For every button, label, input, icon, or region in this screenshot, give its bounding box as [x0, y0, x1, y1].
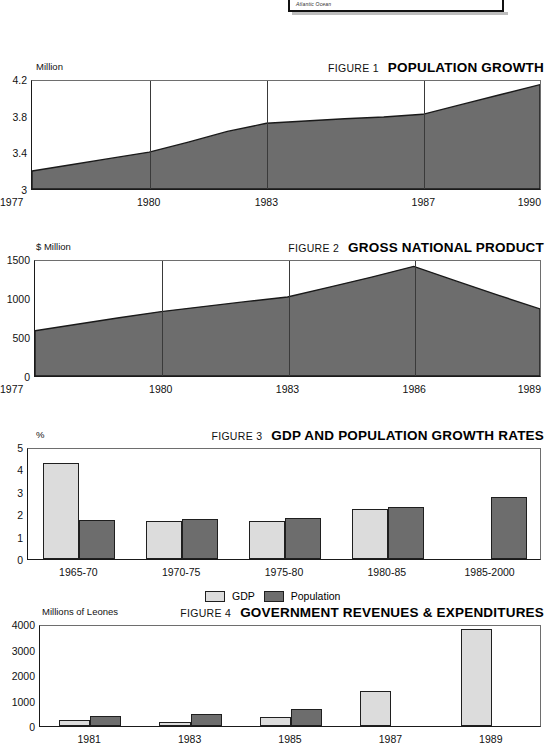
figure-4-number: FIGURE 4: [180, 607, 231, 619]
x-axis-category-label: 1981: [78, 733, 101, 745]
figure-2-gross-national-product: $ Million FIGURE 2 GROSS NATIONAL PRODUC…: [0, 240, 560, 395]
figure-2-plot: [34, 260, 541, 377]
x-axis-category-label: 1983: [178, 733, 201, 745]
figure-1-y-axis: 33.43.84.2: [0, 80, 31, 190]
figure-4-header: Millions of Leones FIGURE 4 GOVERNMENT R…: [0, 605, 560, 621]
bar-population-1970-75: [182, 519, 218, 559]
figure-1-title: POPULATION GROWTH: [388, 60, 544, 75]
x-axis-category-label: 1987: [379, 733, 402, 745]
figure-3-plot: [27, 448, 541, 560]
plot-divider-line: [415, 261, 416, 376]
x-axis-tick-label: 1983: [276, 383, 299, 395]
figure-1-plot-area: 33.43.84.2 19771980198319871990: [0, 80, 560, 208]
bar-revenues-1989: [461, 629, 492, 726]
x-axis-category-label: 1980-85: [368, 566, 407, 578]
figure-1-population-growth: Million FIGURE 1 POPULATION GROWTH 33.43…: [0, 60, 560, 208]
figure-4-plot: [39, 625, 541, 727]
bar-revenues-1983: [159, 722, 190, 726]
y-axis-tick-label: 1000: [12, 696, 35, 708]
map-inset-shadow: [292, 12, 508, 15]
bar-gdp-1980-85: [352, 509, 388, 559]
figure-2-unit-label: $ Million: [36, 241, 71, 252]
y-axis-tick-label: 1000: [7, 293, 30, 305]
legend-label: Population: [291, 590, 341, 602]
x-axis-tick-label: 1990: [518, 196, 541, 208]
bar-population-1975-80: [285, 518, 321, 559]
figure-3-title-block: FIGURE 3 GDP AND POPULATION GROWTH RATES: [211, 428, 544, 443]
plot-divider-line: [150, 81, 151, 189]
y-axis-tick-label: 3.4: [12, 147, 27, 159]
figure-1-unit-label: Million: [36, 61, 63, 72]
y-axis-tick-label: 5: [17, 442, 23, 454]
figure-2-area-series: [35, 261, 540, 376]
bar-population-1980-85: [388, 507, 424, 559]
figure-1-title-block: FIGURE 1 POPULATION GROWTH: [328, 60, 544, 75]
y-axis-tick-label: 4.2: [12, 74, 27, 86]
legend-entry-gdp: GDP: [205, 590, 255, 602]
x-axis-tick-label: 1983: [255, 196, 278, 208]
x-axis-tick-label: 1980: [149, 383, 172, 395]
map-inset-box: Atlantic Ocean: [288, 0, 504, 12]
bar-revenues-1981: [59, 720, 90, 726]
figure-3-gdp-population-growth-rates: % FIGURE 3 GDP AND POPULATION GROWTH RAT…: [0, 428, 560, 578]
bar-gdp-1970-75: [146, 521, 182, 559]
x-axis-category-label: 1985-2000: [464, 566, 514, 578]
plot-divider-line: [267, 81, 268, 189]
bar-expenditures-1983: [191, 714, 222, 726]
plot-divider-line: [162, 261, 163, 376]
y-axis-tick-label: 0: [17, 554, 23, 566]
y-axis-tick-label: 4: [17, 464, 23, 476]
legend-entry-population: Population: [264, 590, 341, 602]
x-axis-tick-label: 1986: [403, 383, 426, 395]
figure-4-unit-label: Millions of Leones: [42, 606, 118, 617]
y-axis-tick-label: 3: [21, 184, 27, 196]
figure-2-title-block: FIGURE 2 GROSS NATIONAL PRODUCT: [288, 240, 544, 255]
legend-label: GDP: [232, 590, 255, 602]
y-axis-tick-label: 2000: [12, 670, 35, 682]
figure-3-plot-area: 012345 1965-701970-751975-801980-851985-…: [0, 448, 560, 578]
plot-divider-line: [424, 81, 425, 189]
figure-3-title: GDP AND POPULATION GROWTH RATES: [271, 428, 544, 443]
x-axis-tick-label: 1980: [137, 196, 160, 208]
figure-3-number: FIGURE 3: [211, 430, 262, 442]
bar-population-1985-2000: [491, 497, 527, 559]
figure-4-title: GOVERNMENT REVENUES & EXPENDITURES: [240, 605, 544, 620]
y-axis-tick-label: 1: [17, 532, 23, 544]
y-axis-tick-label: 0: [29, 721, 35, 733]
x-axis-tick-label: 1989: [518, 383, 541, 395]
figure-1-plot: [31, 80, 541, 190]
figure-2-number: FIGURE 2: [288, 242, 339, 254]
legend-swatch-gdp-icon: [205, 591, 225, 602]
bar-gdp-1965-70: [43, 463, 79, 559]
figure-1-area-series: [32, 81, 540, 189]
bar-gdp-1975-80: [249, 521, 285, 559]
figure-3-y-axis: 012345: [0, 448, 27, 560]
legend-swatch-population-icon: [264, 591, 284, 602]
bar-revenues-1985: [260, 717, 291, 726]
x-axis-category-label: 1970-75: [162, 566, 201, 578]
y-axis-tick-label: 4000: [12, 619, 35, 631]
bar-revenues-1987: [360, 691, 391, 726]
x-axis-category-label: 1989: [479, 733, 502, 745]
bar-expenditures-1981: [90, 716, 121, 726]
bar-population-1965-70: [79, 520, 115, 559]
y-axis-tick-label: 1500: [7, 254, 30, 266]
figure-2-y-axis: 050010001500: [0, 260, 34, 377]
x-axis-category-label: 1975-80: [265, 566, 304, 578]
figure-4-government-revenues-expenditures: Millions of Leones FIGURE 4 GOVERNMENT R…: [0, 605, 560, 745]
bar-expenditures-1985: [291, 709, 322, 726]
figure-3-header: % FIGURE 3 GDP AND POPULATION GROWTH RAT…: [0, 428, 560, 444]
figure-1-header: Million FIGURE 1 POPULATION GROWTH: [0, 60, 560, 76]
figure-4-y-axis: 01000200030004000: [0, 625, 39, 727]
plot-divider-line: [289, 261, 290, 376]
figure-4-title-block: FIGURE 4 GOVERNMENT REVENUES & EXPENDITU…: [180, 605, 544, 620]
figure-2-header: $ Million FIGURE 2 GROSS NATIONAL PRODUC…: [0, 240, 560, 256]
figure-1-number: FIGURE 1: [328, 62, 379, 74]
figure-2-plot-area: 050010001500 19771980198319861989: [0, 260, 560, 395]
y-axis-tick-label: 3.8: [12, 111, 27, 123]
x-axis-tick-label: 1977: [0, 196, 23, 208]
x-axis-category-label: 1985: [278, 733, 301, 745]
y-axis-tick-label: 2: [17, 509, 23, 521]
x-axis-category-label: 1965-70: [59, 566, 98, 578]
figure-4-plot-area: 01000200030004000 19811983198519871989: [0, 625, 560, 745]
